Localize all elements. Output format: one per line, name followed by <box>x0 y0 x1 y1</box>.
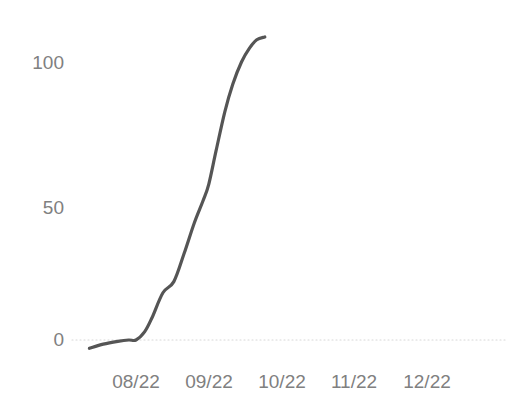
x-axis-tick-0: 08/22 <box>112 371 160 392</box>
x-axis-tick-1: 09/22 <box>185 371 233 392</box>
x-axis-tick-2: 10/22 <box>258 371 306 392</box>
x-axis-tick-3: 11/22 <box>331 371 377 392</box>
y-axis-tick-100: 100 <box>32 52 64 73</box>
y-axis-tick-50: 50 <box>43 197 64 218</box>
series-line-cumulative <box>89 37 264 348</box>
x-axis-tick-4: 12/22 <box>403 371 451 392</box>
y-axis-tick-0: 0 <box>53 329 64 350</box>
chart-container: 0 50 100 08/22 09/22 10/22 11/22 12/22 <box>0 0 522 402</box>
line-chart-canvas: 0 50 100 08/22 09/22 10/22 11/22 12/22 <box>0 0 522 402</box>
